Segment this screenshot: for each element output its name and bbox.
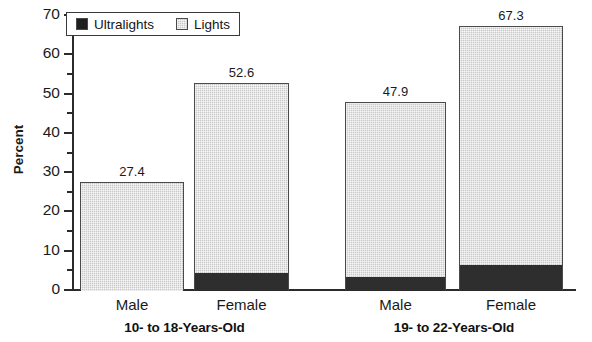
x-tick-label: Female: [459, 296, 563, 313]
bar: [345, 102, 446, 290]
bar-segment-lights: [346, 103, 445, 279]
bar-value-label: 27.4: [80, 164, 184, 179]
lights-swatch-icon: [176, 18, 188, 30]
x-axis-group-label: 10- to 18-Years-Old: [80, 320, 289, 335]
legend-label-lights: Lights: [194, 17, 230, 32]
x-tick-label: Male: [345, 296, 446, 313]
plot-area: 27.452.647.967.3: [0, 0, 592, 342]
legend-item-ultralights: Ultralights: [76, 17, 154, 32]
bar: [80, 182, 184, 290]
bar-segment-ultralights: [460, 265, 562, 290]
bar: [194, 83, 289, 290]
legend-label-ultralights: Ultralights: [94, 17, 154, 32]
bar-segment-lights: [195, 84, 288, 274]
bar-value-label: 47.9: [345, 84, 446, 99]
bar-value-label: 67.3: [459, 8, 563, 23]
bar: [459, 26, 563, 290]
legend-item-lights: Lights: [176, 17, 230, 32]
ultralights-swatch-icon: [76, 18, 88, 30]
bar-segment-ultralights: [195, 273, 288, 290]
x-tick-label: Male: [80, 296, 184, 313]
chart-legend: Ultralights Lights: [66, 12, 240, 36]
chart-figure: Percent 706050403020100 27.452.647.967.3…: [0, 0, 592, 342]
x-axis-group-label: 19- to 22-Years-Old: [345, 320, 563, 335]
bar-segment-ultralights: [346, 277, 445, 290]
bar-segment-lights: [460, 27, 562, 266]
bar-segment-lights: [81, 183, 183, 291]
x-tick-label: Female: [194, 296, 289, 313]
bar-value-label: 52.6: [194, 65, 289, 80]
